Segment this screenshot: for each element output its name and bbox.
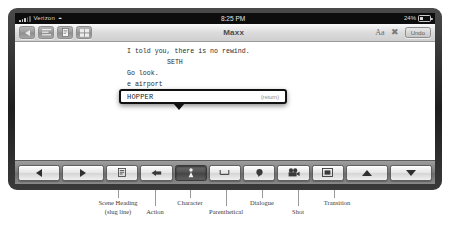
document-title: Maxx [92, 28, 375, 37]
autocomplete-return-hint: (return) [261, 94, 279, 100]
font-size-button[interactable]: Aa [375, 28, 384, 37]
status-bar-right: 24% [404, 13, 431, 24]
leader-line [226, 190, 227, 206]
tablet-screen: Verizon ◓ 8:25 PM 24% [15, 13, 435, 184]
annotation-shot: Shot [272, 208, 324, 217]
shot-camera-icon [288, 168, 300, 177]
format-toolbar [15, 160, 435, 184]
annotation-action: Action [125, 208, 185, 217]
annotation-transition: Transition [306, 199, 368, 208]
parenthetical-button[interactable] [209, 165, 241, 181]
status-bar-time: 8:25 PM [62, 13, 404, 24]
character-person-icon [187, 168, 195, 178]
dialogue-button[interactable] [243, 165, 275, 181]
annotation-line-1: Dialogue [234, 199, 290, 208]
annotation-line-1: Parenthetical [190, 208, 262, 217]
ios-status-bar: Verizon ◓ 8:25 PM 24% [15, 13, 435, 24]
left-triangle-icon [36, 169, 42, 177]
close-x-icon[interactable]: ✖ [391, 28, 399, 37]
annotation-callouts: Scene Heading (slug line) Action Charact… [0, 190, 450, 239]
autocomplete-suggestion: HOPPER [127, 93, 261, 101]
leader-line [118, 190, 119, 198]
scroll-down-button[interactable] [390, 165, 432, 181]
dialogue-dot-icon [255, 168, 264, 177]
back-arrow-icon [25, 30, 30, 36]
leader-line [334, 190, 335, 198]
annotation-line-1: Transition [306, 199, 368, 208]
tablet-device-frame: Verizon ◓ 8:25 PM 24% [8, 8, 442, 190]
leader-line [262, 190, 263, 198]
next-element-button[interactable] [62, 165, 104, 181]
app-toolbar-left-group [19, 26, 92, 39]
back-button[interactable] [19, 26, 35, 39]
scroll-up-button[interactable] [346, 165, 388, 181]
scene-heading-button[interactable] [106, 165, 138, 181]
annotation-dialogue: Dialogue [234, 199, 290, 208]
shot-button[interactable] [277, 165, 309, 181]
right-triangle-icon [80, 169, 86, 177]
leader-line [298, 190, 299, 206]
previous-element-button[interactable] [18, 165, 60, 181]
scene-heading-icon [118, 168, 126, 177]
up-triangle-icon [362, 170, 372, 176]
list-icon [42, 29, 51, 36]
transition-button[interactable] [312, 165, 344, 181]
action-icon [151, 169, 162, 177]
character-button[interactable] [175, 165, 207, 181]
carrier-label: Verizon [34, 13, 55, 24]
annotation-character: Character [160, 199, 220, 208]
battery-icon [418, 15, 431, 22]
signal-bars-icon [19, 16, 31, 22]
battery-percent-label: 24% [404, 13, 416, 24]
outline-list-button[interactable] [38, 26, 54, 39]
parenthetical-icon [219, 169, 230, 176]
document-page-icon [62, 28, 69, 37]
script-line-character: SETH [15, 57, 435, 68]
leader-line [190, 190, 191, 198]
script-line-dialogue: Go look. [15, 68, 435, 79]
annotation-line-1: Shot [272, 208, 324, 217]
down-triangle-icon [406, 170, 416, 176]
script-page[interactable]: I told you, there is no rewind. SETH Go … [15, 42, 435, 160]
autocomplete-popup[interactable]: HOPPER (return) [119, 89, 287, 104]
action-button[interactable] [140, 165, 172, 181]
page-view-button[interactable] [57, 26, 73, 39]
status-bar-left: Verizon ◓ [19, 13, 62, 24]
grid-icon [80, 29, 89, 37]
grid-view-button[interactable] [76, 26, 92, 39]
transition-box-icon [322, 168, 333, 177]
annotation-line-1: Action [125, 208, 185, 217]
annotation-line-1: Character [160, 199, 220, 208]
script-line-action: I told you, there is no rewind. [15, 46, 435, 57]
autocomplete-pointer-triangle [173, 103, 185, 110]
annotation-parenthetical: Parenthetical [190, 208, 262, 217]
undo-button[interactable]: Undo [405, 27, 431, 38]
app-toolbar: Maxx Aa ✖ Undo [15, 24, 435, 42]
app-toolbar-right-group: Aa ✖ Undo [375, 27, 431, 38]
